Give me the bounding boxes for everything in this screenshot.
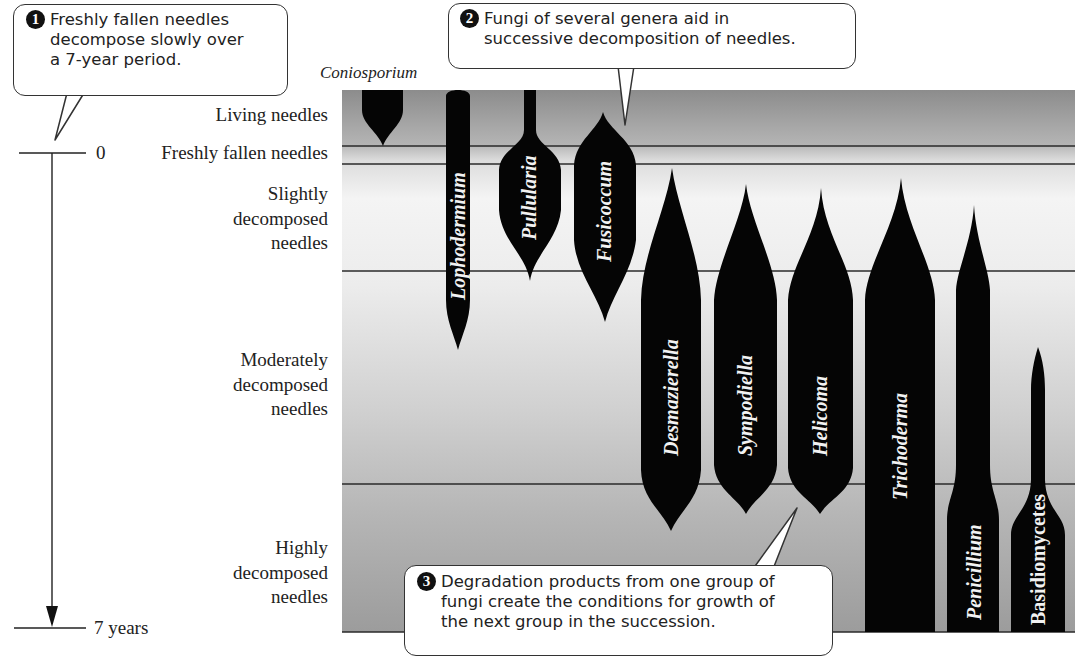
time-axis-start-label: 0 <box>96 142 106 164</box>
arrow-down-icon <box>46 606 58 627</box>
callout-2-line: successive decomposition of needles. <box>460 29 847 49</box>
stage-label-line: decomposed <box>233 561 328 586</box>
time-axis <box>14 153 86 628</box>
genus-label-coniosporium: Coniosporium <box>320 63 417 83</box>
genus-label-basidiomycetes: Basidiomycetes <box>1027 494 1050 625</box>
callout-3-line: 3Degradation products from one group of <box>417 572 824 592</box>
genus-label-desmazierella: Desmazierella <box>660 339 682 457</box>
stage-label-line: needles <box>233 397 328 422</box>
callout-2: 2Fungi of several genera aid in successi… <box>448 3 856 69</box>
genus-label-sympodiella: Sympodiella <box>734 355 757 456</box>
stage-label-line: Moderately <box>233 348 328 373</box>
callout-3-line: fungi create the conditions for growth o… <box>417 592 824 612</box>
callout-3-line: the next group in the succession. <box>417 612 824 632</box>
callout-1: 1Freshly fallen needles decompose slowly… <box>13 4 288 96</box>
stage-label-line: Living needles <box>216 104 328 126</box>
callout-1-line: 1Freshly fallen needles <box>26 10 279 30</box>
genus-label-helicoma: Helicoma <box>809 376 831 457</box>
stage-label-line: Highly <box>233 536 328 561</box>
callout-1-line: decompose slowly over <box>26 30 279 50</box>
stage-label-line: Freshly fallen needles <box>161 142 328 164</box>
stage-label-slightly-decomposed: Slightly decomposed needles <box>233 182 328 256</box>
callout-text: Degradation products from one group of <box>441 572 775 591</box>
stage-label-line: needles <box>233 585 328 610</box>
stage-label-line: needles <box>233 231 328 256</box>
callout-text: Freshly fallen needles <box>50 10 229 29</box>
stage-label-highly-decomposed: Highly decomposed needles <box>233 536 328 610</box>
stage-label-line: decomposed <box>233 207 328 232</box>
genus-label-pullularia: Pullularia <box>518 156 540 241</box>
callout-1-tail <box>55 93 84 140</box>
stage-label-line: Slightly <box>233 182 328 207</box>
stage-label-line: decomposed <box>233 373 328 398</box>
callout-2-line: 2Fungi of several genera aid in <box>460 9 847 29</box>
genus-label-penicillium: Penicillium <box>963 524 985 621</box>
time-axis-end-label: 7 years <box>94 617 148 639</box>
genus-label-fusicoccum: Fusicoccum <box>593 161 615 263</box>
stage-label-freshly-fallen: Freshly fallen needles <box>161 142 328 164</box>
number-badge-1-icon: 1 <box>26 10 45 29</box>
genus-label-trichoderma: Trichoderma <box>889 393 911 500</box>
callout-1-line: a 7-year period. <box>26 50 279 70</box>
number-badge-2-icon: 2 <box>460 9 479 28</box>
callout-text: Fungi of several genera aid in <box>484 9 729 28</box>
stage-label-moderately-decomposed: Moderately decomposed needles <box>233 348 328 422</box>
stage-label-living: Living needles <box>216 104 328 126</box>
number-badge-3-icon: 3 <box>417 572 436 591</box>
callout-3: 3Degradation products from one group of … <box>404 565 833 656</box>
genus-label-lophodermium: Lophodermium <box>447 172 470 301</box>
